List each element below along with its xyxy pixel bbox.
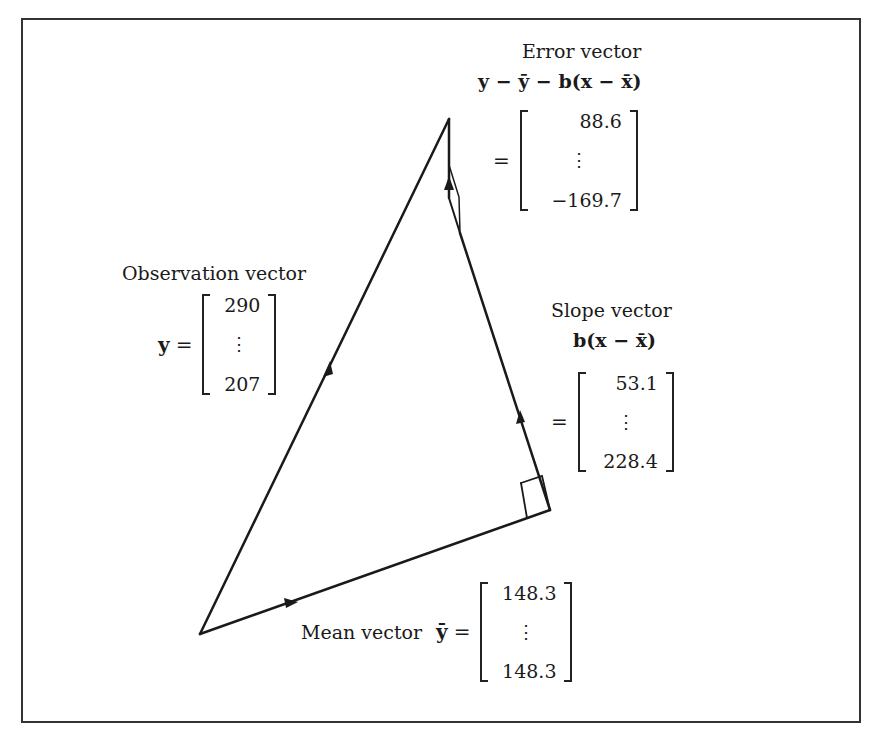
error-vector-matrix: = 88.6 ⋮ −169.7 <box>493 110 638 211</box>
mean-symbol: ȳ <box>436 620 448 644</box>
right-angle-mark-top <box>449 165 460 233</box>
matrix-entry-first: 53.1 <box>615 372 657 394</box>
mean-vector-title: Mean vector <box>301 623 422 642</box>
left-bracket <box>520 110 528 211</box>
equals-sign: = <box>176 333 193 357</box>
observation-symbol: y <box>158 333 170 357</box>
right-bracket <box>268 294 276 395</box>
right-bracket <box>630 110 638 211</box>
equals-sign: = <box>454 620 471 644</box>
slope-vector-matrix: = 53.1 ⋮ 228.4 <box>551 372 674 472</box>
matrix-entry-last: −169.7 <box>551 189 621 211</box>
matrix-entry-first: 290 <box>224 294 260 316</box>
right-bracket <box>564 582 572 682</box>
matrix-entry-last: 228.4 <box>603 450 657 472</box>
matrix-ellipsis: ⋮ <box>617 417 635 428</box>
error-vector-formula: y − ȳ − b(x − x̄) <box>478 72 641 91</box>
equals-sign: = <box>493 149 510 173</box>
slope-vector-formula: b(x − x̄) <box>573 331 656 350</box>
left-bracket <box>202 294 210 395</box>
matrix-ellipsis: ⋮ <box>570 155 588 166</box>
matrix-entry-first: 148.3 <box>502 582 556 604</box>
slope-vector-title: Slope vector <box>551 301 672 320</box>
error-vector-title: Error vector <box>522 42 641 61</box>
observation-vector-title: Observation vector <box>122 264 306 283</box>
matrix-ellipsis: ⋮ <box>230 339 248 350</box>
matrix-entry-first: 88.6 <box>579 110 621 132</box>
matrix-entry-last: 207 <box>224 373 260 395</box>
left-bracket <box>480 582 488 682</box>
equals-sign: = <box>551 410 568 434</box>
right-bracket <box>666 372 674 472</box>
left-bracket <box>578 372 586 472</box>
observation-vector-matrix: y = 290 ⋮ 207 <box>158 294 276 395</box>
mean-vector-matrix: Mean vector ȳ = 148.3 ⋮ 148.3 <box>301 582 572 682</box>
slope-vector-line <box>460 233 550 510</box>
matrix-entry-last: 148.3 <box>502 660 556 682</box>
matrix-ellipsis: ⋮ <box>517 627 535 638</box>
